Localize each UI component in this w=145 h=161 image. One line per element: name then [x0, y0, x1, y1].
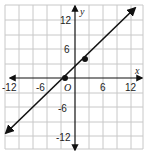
coordinate-plane: -12 -6 6 12 12 6 -6 -12 x y O — [0, 0, 145, 161]
data-point — [82, 56, 88, 62]
x-tick-label: 6 — [100, 82, 106, 93]
y-tick-label: -12 — [56, 132, 71, 143]
grid — [5, 5, 143, 149]
y-tick-label: 6 — [64, 44, 70, 55]
x-tick-label: 12 — [125, 82, 137, 93]
y-tick-label: 12 — [60, 15, 72, 26]
graph-line — [6, 8, 135, 133]
y-axis-label: y — [79, 6, 85, 17]
y-tick-label: -6 — [58, 103, 67, 114]
origin-label: O — [64, 82, 71, 93]
x-axis-label: x — [134, 65, 140, 76]
data-point — [62, 75, 68, 81]
x-tick-label: -6 — [36, 82, 45, 93]
x-tick-label: -12 — [2, 82, 17, 93]
